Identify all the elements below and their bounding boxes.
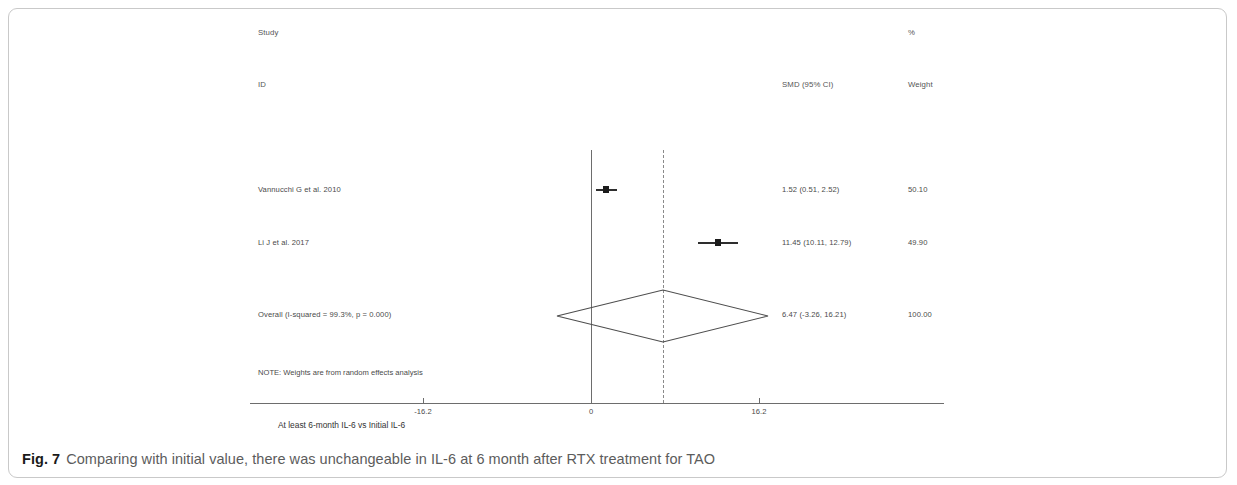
x-tick-label-1: 0 <box>589 407 593 416</box>
header-weight: Weight <box>908 80 933 89</box>
header-effect-size: SMD (95% CI) <box>782 80 833 89</box>
point-estimate-marker-row-0 <box>603 186 609 193</box>
weight-value-overall: 100.00 <box>908 310 932 319</box>
study-label-overall: Overall (I-squared = 99.3%, p = 0.000) <box>258 310 391 319</box>
forest-plot-panel: Study % ID SMD (95% CI) Weight Vannucchi… <box>0 0 1237 440</box>
null-effect-line <box>591 150 592 403</box>
point-estimate-marker-row-1 <box>715 239 721 246</box>
figure-caption: Fig. 7Comparing with initial value, ther… <box>22 451 1212 467</box>
weight-value-row-1: 49.90 <box>908 238 928 247</box>
x-tick-mark-2 <box>759 398 760 404</box>
x-tick-mark-1 <box>591 398 592 404</box>
header-study-line2: ID <box>258 80 266 89</box>
study-label-row-1: Li J et al. 2017 <box>258 238 309 247</box>
effect-value-overall: 6.47 (-3.26, 16.21) <box>782 310 846 319</box>
x-tick-label-0: -16.2 <box>414 407 431 416</box>
x-axis-line <box>250 403 944 404</box>
effect-value-row-1: 11.45 (10.11, 12.79) <box>782 238 851 247</box>
header-percent-symbol: % <box>908 28 915 37</box>
figure-number: Fig. 7 <box>22 451 60 467</box>
figure-container: Study % ID SMD (95% CI) Weight Vannucchi… <box>0 0 1237 485</box>
effect-value-row-0: 1.52 (0.51, 2.52) <box>782 185 839 194</box>
x-axis-title: At least 6-month IL-6 vs Initial IL-6 <box>278 420 405 430</box>
header-study-line1: Study <box>258 28 278 37</box>
weights-note: NOTE: Weights are from random effects an… <box>258 368 423 377</box>
x-tick-mark-0 <box>423 398 424 404</box>
weight-value-row-0: 50.10 <box>908 185 928 194</box>
x-tick-label-2: 16.2 <box>752 407 767 416</box>
pooled-estimate-line <box>663 150 664 403</box>
figure-caption-text: Comparing with initial value, there was … <box>66 451 715 467</box>
study-label-row-0: Vannucchi G et al. 2010 <box>258 185 341 194</box>
pooled-effect-diamond <box>540 288 780 344</box>
